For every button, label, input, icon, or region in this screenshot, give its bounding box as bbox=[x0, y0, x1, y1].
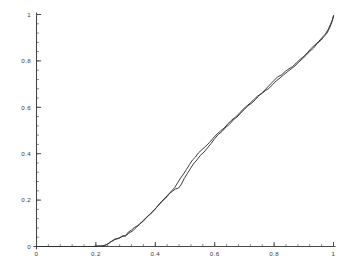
axis-lines bbox=[34, 13, 336, 250]
y-tick-label: 0.4 bbox=[21, 150, 31, 157]
major-ticks bbox=[36, 15, 334, 248]
x-tick-label: 0 bbox=[35, 250, 39, 257]
minor-ticks bbox=[37, 15, 334, 247]
x-tick-label: 0.2 bbox=[91, 250, 101, 257]
plot-area: 00.20.40.60.8100.20.40.60.81 bbox=[0, 0, 359, 266]
x-tick-label: 0.4 bbox=[150, 250, 160, 257]
y-tick-label: 0 bbox=[27, 243, 31, 250]
data-series bbox=[37, 15, 334, 246]
tick-labels: 00.20.40.60.8100.20.40.60.81 bbox=[21, 11, 335, 257]
x-tick-label: 0.8 bbox=[269, 250, 279, 257]
y-tick-label: 0.2 bbox=[21, 196, 31, 203]
y-tick-label: 0.6 bbox=[21, 104, 31, 111]
series-line-curve-1 bbox=[37, 16, 334, 246]
x-tick-label: 1 bbox=[332, 250, 336, 257]
y-tick-label: 0.8 bbox=[21, 57, 31, 64]
series-line-curve-2 bbox=[37, 15, 334, 246]
y-tick-label: 1 bbox=[27, 11, 31, 18]
chart-container: 00.20.40.60.8100.20.40.60.81 bbox=[0, 0, 359, 266]
x-tick-label: 0.6 bbox=[210, 250, 220, 257]
